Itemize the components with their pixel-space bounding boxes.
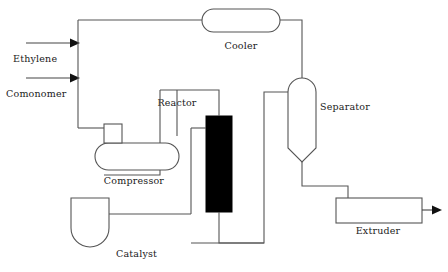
pfd-canvas: Cooler Separator Reactor [0, 0, 448, 272]
ethylene-feed-arrow [26, 39, 80, 48]
separator-to-extruder-line [302, 162, 348, 198]
comonomer-stream-label: Comonomer [6, 88, 67, 99]
cooler-vessel [202, 9, 280, 32]
extruder-label: Extruder [356, 225, 401, 236]
product-outlet-arrow [422, 206, 442, 215]
compressor-vessel [95, 124, 179, 170]
catalyst-label: Catalyst [116, 248, 157, 259]
ethylene-stream-label: Ethylene [13, 53, 57, 64]
reactor-vessel [206, 116, 232, 212]
extruder-vessel [336, 198, 422, 223]
compressor-label: Compressor [104, 175, 165, 186]
process-flow-diagram: Cooler Separator Reactor [0, 0, 448, 272]
cooler-to-separator-line [280, 20, 302, 80]
reactor-to-separator-line [219, 212, 264, 243]
feed-header-line [78, 20, 202, 128]
catalyst-vessel [71, 198, 109, 247]
separator-vessel [288, 78, 316, 162]
comonomer-feed-arrow [26, 74, 80, 83]
separator-label: Separator [320, 101, 370, 112]
cooler-label: Cooler [224, 40, 257, 51]
